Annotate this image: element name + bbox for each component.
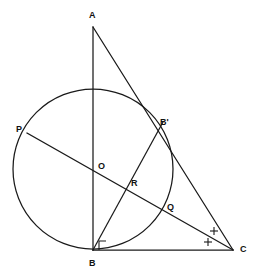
segment-PC xyxy=(27,133,233,250)
point-label-P: P xyxy=(16,125,22,134)
point-label-A: A xyxy=(89,11,96,20)
point-label-Q: Q xyxy=(167,203,174,212)
point-label-B-prime: B' xyxy=(160,118,169,127)
point-label-C: C xyxy=(240,245,247,254)
geometry-figure: A B C B' O P Q R xyxy=(0,0,254,278)
segment-BBprime xyxy=(93,122,163,250)
angle-plus-upper-icon xyxy=(210,227,218,235)
angle-plus-lower-icon xyxy=(204,238,212,246)
figure-canvas xyxy=(0,0,254,278)
point-label-O: O xyxy=(98,162,105,171)
point-label-R: R xyxy=(131,179,138,188)
point-label-B: B xyxy=(89,259,96,268)
segment-AC xyxy=(93,27,233,250)
